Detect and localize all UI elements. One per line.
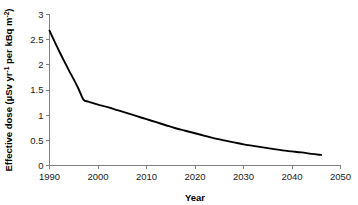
x-tick-label: 2040 — [281, 171, 302, 182]
effective-dose-line-chart: 00.511.522.53199020002010202020302040205… — [0, 0, 358, 205]
y-tick-label: 2.5 — [30, 34, 43, 45]
y-tick-label: 1.5 — [30, 84, 43, 95]
y-tick-label: 0 — [38, 160, 43, 171]
x-tick-label: 2010 — [136, 171, 157, 182]
x-tick-label: 2000 — [87, 171, 108, 182]
data-series-effective-dose — [50, 31, 322, 155]
x-axis-title: Year — [185, 192, 205, 203]
y-tick-label: 3 — [38, 9, 43, 20]
y-tick-label: 2 — [38, 59, 43, 70]
x-tick-label: 2020 — [184, 171, 205, 182]
x-tick-label: 1990 — [39, 171, 60, 182]
x-tick-label: 2030 — [233, 171, 254, 182]
x-tick-label: 2050 — [330, 171, 351, 182]
y-axis-title: Effective dose (µSv yr-1 per kBq m-2) — [3, 9, 14, 172]
y-tick-label: 0.5 — [30, 135, 43, 146]
y-tick-label: 1 — [38, 110, 43, 121]
